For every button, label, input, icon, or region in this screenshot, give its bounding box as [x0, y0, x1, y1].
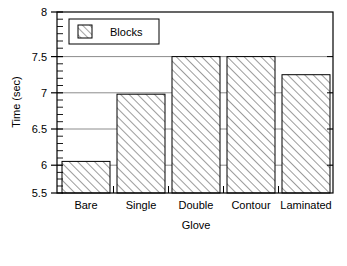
bar-chart-figure: 8 7.5 7 6.5 6 5.5 Time (sec) Bare Single…: [0, 0, 347, 266]
bar-double[interactable]: [172, 57, 220, 193]
bar-bare[interactable]: [62, 161, 110, 193]
x-tick-label-contour: Contour: [231, 199, 270, 211]
legend-swatch-blocks-icon: [78, 25, 92, 38]
x-tick-label-laminated: Laminated: [280, 199, 331, 211]
x-axis-title: Glove: [182, 219, 211, 231]
bar-single[interactable]: [117, 94, 165, 193]
y-tick-label-6: 6: [41, 159, 47, 171]
y-tick-label-8: 8: [41, 6, 47, 18]
legend-label-blocks: Blocks: [110, 26, 143, 38]
y-tick-label-6-5: 6.5: [32, 123, 47, 135]
legend[interactable]: Blocks: [69, 19, 159, 44]
bar-contour[interactable]: [227, 57, 275, 193]
y-tick-label-5-5: 5.5: [32, 187, 47, 199]
x-tick-label-double: Double: [179, 199, 214, 211]
y-tick-label-7-5: 7.5: [32, 51, 47, 63]
x-tick-label-single: Single: [126, 199, 157, 211]
y-axis-title: Time (sec): [10, 76, 22, 128]
y-tick-label-7: 7: [41, 87, 47, 99]
chart-canvas: 8 7.5 7 6.5 6 5.5 Time (sec) Bare Single…: [0, 0, 347, 266]
x-tick-label-bare: Bare: [74, 199, 97, 211]
bar-laminated[interactable]: [282, 75, 330, 193]
